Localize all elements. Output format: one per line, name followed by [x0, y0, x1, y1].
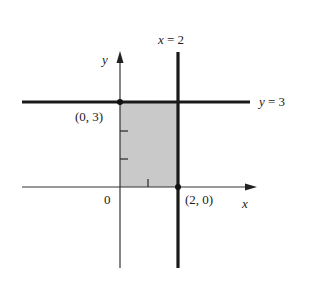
y-axis-arrow-icon: [117, 51, 124, 63]
x-axis-label: x: [241, 196, 248, 211]
point-0-3: [117, 99, 123, 105]
y-axis-label: y: [100, 52, 108, 67]
label-y-equals-3: y = 3: [257, 94, 285, 109]
point-2-0: [175, 184, 181, 190]
shaded-region: [120, 102, 178, 187]
point-0-3-label: (0, 3): [75, 109, 103, 124]
label-x-equals-2: x = 2: [157, 32, 184, 47]
coordinate-plane: x = 2 y = 3 y (0, 3) 0 (2, 0) x: [0, 0, 315, 290]
origin-label: 0: [104, 192, 111, 207]
x-axis-arrow-icon: [245, 184, 257, 191]
point-2-0-label: (2, 0): [185, 192, 213, 207]
